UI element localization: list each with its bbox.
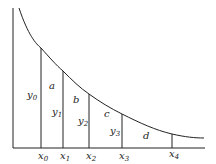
label-y0: y0	[26, 89, 38, 102]
strip-diagram: y0 y1 y2 y3 a b c d x0 x1 x2 x3 x4	[0, 0, 216, 164]
region-a: a	[49, 80, 55, 91]
curve	[19, 8, 204, 138]
label-y2: y2	[77, 115, 89, 128]
region-d: d	[143, 130, 149, 141]
label-x0: x0	[38, 150, 49, 163]
label-x1: x1	[60, 150, 70, 163]
label-x2: x2	[86, 150, 97, 163]
label-y1: y1	[51, 106, 62, 119]
region-b: b	[73, 94, 79, 105]
label-x4: x4	[169, 148, 179, 161]
label-x3: x3	[119, 150, 130, 163]
region-c: c	[104, 108, 110, 119]
label-y3: y3	[109, 125, 121, 138]
